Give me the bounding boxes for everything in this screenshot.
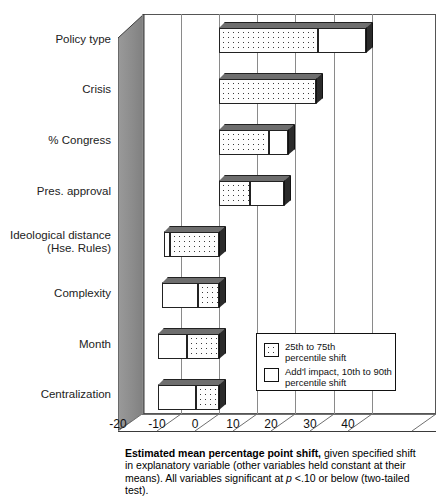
bar-month — [158, 334, 219, 359]
category-label-policy-type: Policy type — [55, 33, 111, 46]
bar-complexity — [162, 283, 219, 308]
xtick-label-30: 30 — [290, 417, 330, 431]
caption-line3-post: <.10 or below — [292, 472, 358, 484]
category-label-month: Month — [79, 338, 111, 351]
category-label-ideological-distance: Ideological distance (Hse. Rules) — [10, 229, 111, 255]
bar-pct-congress — [219, 130, 288, 155]
bar-segment-iqr — [198, 283, 219, 308]
bar-segment-iqr — [170, 232, 219, 257]
caption-rest-line1: given specified — [321, 447, 393, 459]
caption-bold-lead: Estimated mean percentage point shift, — [125, 447, 321, 459]
bar-segment-iqr — [196, 385, 219, 410]
chart-legend: 25th to 75th percentile shift Add'l impa… — [256, 333, 396, 391]
bar-policy-type — [219, 28, 366, 53]
legend-item-iqr: 25th to 75th percentile shift — [264, 342, 346, 363]
xtick-label-20: 20 — [251, 417, 291, 431]
xtick-label-0: 0 — [175, 417, 215, 431]
bar-segment-addl — [158, 385, 196, 410]
gridline-minus20 — [142, 14, 143, 414]
bar-centralization — [158, 385, 219, 410]
bar-segment-addl — [250, 181, 284, 206]
xtick-label-10: 10 — [213, 417, 253, 431]
bar-segment-addl — [158, 334, 187, 359]
plot-area: -20 -10 0 10 20 30 40 Policy type Crisis… — [0, 0, 437, 440]
legend-item-addl: Add'l impact, 10th to 90th percentile sh… — [264, 367, 392, 388]
bar-segment-iqr — [219, 181, 250, 206]
bar-ideological-distance — [164, 232, 219, 257]
bar-pres-approval — [219, 181, 284, 206]
category-label-centralization: Centralization — [41, 388, 111, 401]
bar-segment-iqr — [219, 79, 316, 104]
bar-segment-iqr — [219, 28, 318, 53]
chart-figure: -20 -10 0 10 20 30 40 Policy type Crisis… — [0, 0, 437, 502]
xtick-label-minus20: -20 — [98, 417, 138, 431]
category-label-crisis: Crisis — [82, 83, 111, 96]
bar-segment-addl — [269, 130, 288, 155]
legend-swatch-white-icon — [264, 368, 279, 382]
bar-segment-iqr — [187, 334, 219, 359]
legend-label-iqr: 25th to 75th percentile shift — [285, 342, 346, 363]
category-label-complexity: Complexity — [54, 287, 111, 300]
bar-segment-addl — [318, 28, 366, 53]
bar-segment-iqr — [219, 130, 269, 155]
legend-label-addl: Add'l impact, 10th to 90th percentile sh… — [285, 367, 392, 388]
bar-segment-addl — [162, 283, 198, 308]
category-label-pct-congress: % Congress — [48, 134, 111, 147]
xtick-label-40: 40 — [328, 417, 368, 431]
category-label-pres-approval: Pres. approval — [37, 185, 111, 198]
plot-left-wall-3d — [118, 14, 144, 430]
legend-swatch-dotted-icon — [264, 343, 279, 357]
bar-crisis — [219, 79, 316, 104]
figure-caption: Estimated mean percentage point shift, g… — [125, 447, 425, 497]
xtick-label-minus10: -10 — [137, 417, 177, 431]
